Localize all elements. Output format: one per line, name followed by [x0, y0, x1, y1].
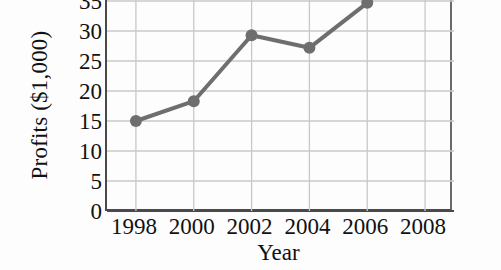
x-tick-label: 1998: [111, 213, 157, 241]
data-point-marker: [303, 42, 315, 54]
line-chart-figure: Profits ($1,000) 05101520253035 19982000…: [0, 0, 501, 270]
y-tick-label: 5: [58, 170, 102, 193]
y-tick-label: 30: [58, 20, 102, 43]
data-point-marker: [130, 115, 142, 127]
data-point-marker: [188, 95, 200, 107]
x-tick-label: 2004: [284, 213, 330, 241]
x-axis-title: Year: [105, 240, 452, 266]
x-tick-label: 2000: [169, 213, 215, 241]
y-tick-label: 35: [58, 0, 102, 13]
x-tick-label: 2006: [342, 213, 388, 241]
y-tick-label: 15: [58, 110, 102, 133]
plot-area: [105, 0, 452, 211]
x-tick-label: 2008: [400, 213, 446, 241]
y-tick-label: 20: [58, 80, 102, 103]
y-axis-title: Profits ($1,000): [27, 5, 53, 205]
x-axis-tick-labels: 199820002002200420062008: [0, 213, 501, 243]
data-point-marker: [246, 29, 258, 41]
x-tick-label: 2002: [227, 213, 273, 241]
series-line-profits: [136, 3, 367, 121]
y-tick-label: 25: [58, 50, 102, 73]
y-tick-label: 10: [58, 140, 102, 163]
data-series-profits: [107, 0, 454, 211]
